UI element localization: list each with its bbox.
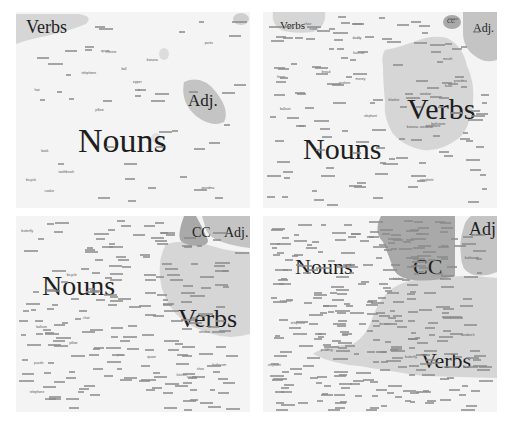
word-label: daddy <box>353 37 362 40</box>
word-token <box>367 330 373 332</box>
word-token <box>416 354 430 356</box>
word-token <box>329 48 334 50</box>
word-token <box>85 46 93 48</box>
word-token <box>276 36 286 38</box>
word-token <box>370 381 378 383</box>
word-token <box>282 237 289 239</box>
word-token <box>408 186 418 188</box>
word-token <box>376 147 385 149</box>
word-label: bicycle <box>26 179 36 182</box>
word-token <box>391 248 397 250</box>
word-token <box>44 372 51 374</box>
word-token <box>199 21 204 23</box>
word-token <box>47 289 56 291</box>
word-token <box>191 263 198 265</box>
word-token <box>89 354 99 356</box>
word-token <box>183 400 195 402</box>
word-token <box>58 163 64 165</box>
word-token <box>440 231 449 233</box>
word-token <box>328 311 335 313</box>
word-token <box>155 240 167 242</box>
word-token <box>463 298 473 300</box>
word-label: tongue <box>448 18 458 21</box>
word-token <box>468 119 482 121</box>
word-token <box>215 284 228 286</box>
word-token <box>271 297 277 299</box>
word-token <box>402 279 410 281</box>
word-token <box>27 344 40 346</box>
word-token <box>52 304 58 306</box>
word-token <box>349 272 354 274</box>
word-token <box>287 117 299 119</box>
word-token <box>317 376 326 378</box>
word-token <box>359 323 366 325</box>
word-token <box>281 278 286 280</box>
word-token <box>312 190 317 192</box>
word-token <box>424 350 437 352</box>
word-token <box>464 276 478 278</box>
word-token <box>280 77 288 79</box>
word-token <box>307 269 317 271</box>
word-token <box>103 100 112 102</box>
word-token <box>209 142 220 144</box>
word-token <box>407 284 418 286</box>
word-token <box>155 222 164 224</box>
word-token <box>353 380 364 382</box>
word-token <box>223 382 235 384</box>
word-token <box>316 267 331 269</box>
word-token <box>344 303 350 305</box>
word-token <box>38 238 43 240</box>
word-token <box>145 292 156 294</box>
word-token <box>460 138 470 140</box>
word-token <box>19 380 34 382</box>
word-token <box>215 270 228 272</box>
word-token <box>441 275 453 277</box>
word-token <box>307 357 320 359</box>
word-token <box>75 318 81 320</box>
word-token <box>172 130 178 132</box>
word-token <box>380 162 385 164</box>
word-token <box>69 407 79 409</box>
word-token <box>463 366 478 368</box>
word-token <box>183 373 196 375</box>
word-token <box>194 189 208 191</box>
word-token <box>284 384 294 386</box>
word-token <box>418 227 429 229</box>
word-token <box>216 320 225 322</box>
word-token <box>382 38 392 40</box>
word-token <box>479 366 492 368</box>
word-label: chair <box>83 317 90 320</box>
word-token <box>171 320 184 322</box>
word-token <box>345 345 355 347</box>
word-token <box>222 92 235 94</box>
word-token <box>376 312 385 314</box>
word-token <box>99 28 112 30</box>
word-token <box>379 283 388 285</box>
word-token <box>229 35 241 37</box>
word-token <box>23 310 30 312</box>
word-token <box>156 276 164 278</box>
word-token <box>62 322 68 324</box>
word-label: puzzle <box>34 362 44 365</box>
word-token <box>215 197 223 199</box>
word-token <box>482 102 487 104</box>
word-token <box>294 240 307 242</box>
word-token <box>423 251 435 253</box>
word-token <box>414 273 420 275</box>
word-token <box>321 394 333 396</box>
word-token <box>19 320 28 322</box>
word-token <box>321 224 327 226</box>
word-token <box>316 73 328 75</box>
word-token <box>48 63 63 65</box>
word-token <box>275 140 285 142</box>
word-label: pillow <box>69 342 77 345</box>
word-token <box>407 293 415 295</box>
word-label: telephone <box>30 391 44 394</box>
word-token <box>418 245 430 247</box>
word-token <box>299 345 313 347</box>
word-token <box>84 385 95 387</box>
word-token <box>141 379 155 381</box>
word-token <box>341 252 355 254</box>
word-token <box>411 265 425 267</box>
word-token <box>355 395 363 397</box>
